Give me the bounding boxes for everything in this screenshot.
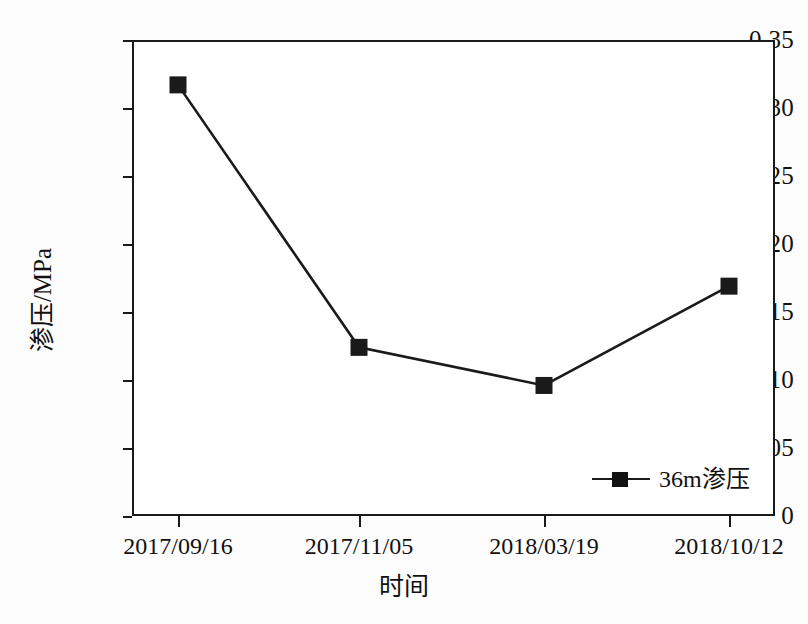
x-tick-mark xyxy=(359,516,361,527)
data-point-marker xyxy=(721,278,738,295)
x-tick-mark xyxy=(178,516,180,527)
y-tick-mark xyxy=(123,40,132,42)
x-tick-label: 2018/10/12 xyxy=(614,531,808,561)
y-tick-mark xyxy=(123,244,132,246)
series-line-36m xyxy=(178,85,729,386)
x-tick-mark xyxy=(729,516,731,527)
y-tick-mark xyxy=(123,516,132,518)
data-point-marker xyxy=(351,339,368,356)
data-point-marker xyxy=(170,76,187,93)
data-series-plot xyxy=(132,40,775,516)
y-axis-title: 渗压/MPa xyxy=(30,248,55,352)
y-tick-mark xyxy=(123,448,132,450)
y-tick-mark xyxy=(123,312,132,314)
x-axis-title: 时间 xyxy=(0,572,808,602)
y-tick-mark xyxy=(123,108,132,110)
y-tick-mark xyxy=(123,176,132,178)
series-markers-36m xyxy=(170,76,738,394)
legend-label: 36m渗压 xyxy=(659,467,750,491)
chart-figure: 0.35 0.30 0.25 0.20 0.15 0.10 0.05 0 渗压/… xyxy=(0,0,808,624)
data-point-marker xyxy=(536,377,553,394)
x-tick-mark xyxy=(544,516,546,527)
y-tick-mark xyxy=(123,380,132,382)
legend-square-icon xyxy=(612,472,628,487)
legend-marker-icon xyxy=(592,470,650,488)
chart-legend: 36m渗压 xyxy=(592,467,750,491)
